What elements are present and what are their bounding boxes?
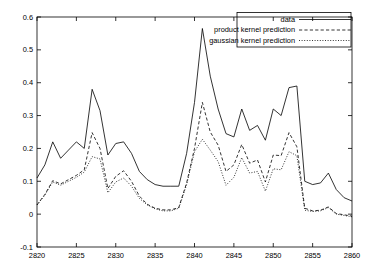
x-tick-label: 2830 xyxy=(108,251,124,260)
x-tick-label: 2825 xyxy=(68,251,84,260)
y-tick-label: 0.4 xyxy=(23,78,33,87)
y-tick-label: 0.3 xyxy=(23,111,33,120)
x-tick-label: 2845 xyxy=(226,251,242,260)
x-tick-label: 2855 xyxy=(304,251,320,260)
series-line-product-kernel xyxy=(37,102,352,216)
y-tick-label: 0.5 xyxy=(23,45,33,54)
y-tick-label: 0.1 xyxy=(23,177,33,186)
x-tick-label: 2835 xyxy=(147,251,163,260)
x-tick-label: 2850 xyxy=(265,251,281,260)
x-tick-label: 2860 xyxy=(344,251,360,260)
chart-legend: dataproduct kernel predictiongaussian ke… xyxy=(209,13,351,48)
legend-label: product kernel prediction xyxy=(214,25,295,34)
y-tick-label: 0.6 xyxy=(23,13,33,22)
x-tick-label: 2840 xyxy=(186,251,202,260)
y-tick-label: 0.2 xyxy=(23,144,33,153)
data-series-group xyxy=(37,29,352,217)
x-axis-ticks: 282028252830283528402845285028552860 xyxy=(29,17,360,260)
plot-frame xyxy=(37,17,352,247)
legend-label: gaussian kernel prediction xyxy=(209,36,295,45)
legend-label: data xyxy=(281,15,296,24)
series-line-data xyxy=(37,29,352,202)
line-chart: -0.100.10.20.30.40.50.6 2820282528302835… xyxy=(0,0,379,279)
chart-figure: -0.100.10.20.30.40.50.6 2820282528302835… xyxy=(0,0,379,279)
x-tick-label: 2820 xyxy=(29,251,45,260)
plot-border xyxy=(37,17,352,247)
y-tick-label: 0 xyxy=(29,210,33,219)
y-axis-ticks: -0.100.10.20.30.40.50.6 xyxy=(20,13,352,252)
